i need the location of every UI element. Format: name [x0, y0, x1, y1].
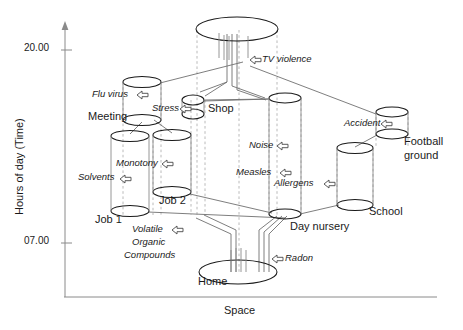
- place-label-shop: Shop: [208, 103, 234, 115]
- hazard-label-voc-line2: Organic: [132, 237, 165, 247]
- link-football-school: [355, 135, 377, 147]
- place-label-daynursery: Day nursery: [290, 221, 349, 233]
- hazard-label-voc-line3: Compounds: [124, 250, 175, 260]
- place-daynursery[interactable]: [269, 93, 301, 219]
- link-job-home-b: [196, 218, 231, 272]
- allergens-icon: [324, 180, 335, 188]
- x-axis-label: Space: [224, 305, 255, 317]
- noise-icon: [277, 142, 288, 150]
- monotony-icon: [162, 160, 173, 168]
- place-job1-top: [111, 131, 149, 142]
- link-nursery-school: [300, 205, 339, 214]
- link-media-down-c: [200, 34, 227, 92]
- y-axis-label: Hours of day (Time): [14, 118, 26, 215]
- hazard-label-flu-virus: Flu virus: [92, 89, 128, 99]
- place-school-top: [337, 143, 373, 154]
- accident-icon: [381, 120, 392, 128]
- place-label-job2: Job 2: [159, 195, 186, 207]
- measles-icon: [280, 169, 291, 177]
- hazard-label-allergens: Allergens: [274, 178, 314, 188]
- flu-virus-icon: [137, 91, 148, 99]
- diagram-svg: [0, 0, 463, 330]
- place-label-job1: Job 1: [95, 214, 122, 226]
- place-shop-top: [182, 95, 204, 105]
- voc-icon: [172, 226, 183, 234]
- hazard-label-accident: Accident: [344, 118, 380, 128]
- radon-icon: [272, 255, 283, 263]
- hazard-label-measles: Measles: [236, 167, 271, 177]
- hazard-label-radon: Radon: [285, 253, 313, 263]
- hazard-label-stress: Stress: [152, 103, 179, 113]
- place-label-home: Home: [198, 276, 227, 288]
- link-nursery-home-c: [269, 216, 287, 272]
- link-meeting-job1: [130, 122, 142, 134]
- link-meeting-job2: [154, 120, 172, 133]
- place-daynursery-top: [269, 93, 301, 103]
- tv-violence-icon: [250, 56, 261, 64]
- y-axis-arrowhead: [62, 21, 69, 30]
- place-label-football-line2: ground: [404, 150, 438, 162]
- hazard-label-solvents: Solvents: [78, 172, 114, 182]
- link-nursery-home-a: [259, 216, 277, 272]
- diagram-canvas: 20.00 07.00 Hours of day (Time) Space Me…: [0, 0, 463, 330]
- place-job1[interactable]: [111, 131, 149, 217]
- place-label-meeting: Meeting: [88, 111, 127, 123]
- hazard-label-voc-line1: Volatile: [132, 224, 163, 234]
- place-school[interactable]: [337, 143, 373, 211]
- place-label-school: School: [369, 206, 403, 218]
- guide-lines: [123, 30, 408, 272]
- link-job2-nursery: [190, 194, 272, 213]
- place-football-top: [376, 107, 408, 117]
- hazard-label-noise: Noise: [249, 140, 273, 150]
- link-media-nursery: [205, 99, 268, 100]
- place-school-bottom: [337, 200, 373, 211]
- media-strands: [219, 33, 248, 60]
- place-meeting-top: [123, 77, 161, 88]
- link-job1-home: [148, 212, 286, 218]
- solvents-icon: [120, 175, 131, 183]
- place-job2-top: [153, 130, 191, 141]
- place-label-football-line1: Football: [404, 136, 443, 148]
- hazard-label-monotony: Monotony: [116, 158, 158, 168]
- link-meeting-media: [160, 62, 243, 83]
- hazard-label-tv-violence: TV violence: [262, 54, 312, 64]
- place-meeting-bottom: [123, 115, 161, 126]
- y-tick-label-0700: 07.00: [24, 236, 49, 247]
- y-tick-label-2000: 20.00: [24, 43, 49, 54]
- trajectory-lines: [130, 34, 377, 272]
- place-meeting[interactable]: [123, 77, 161, 126]
